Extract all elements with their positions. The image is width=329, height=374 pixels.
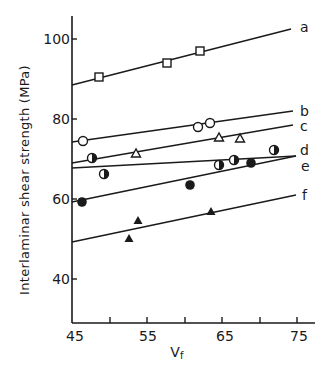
open-square-marker [196, 47, 204, 55]
half-filled-circle-marker [270, 146, 279, 155]
y-tick-label: 40 [52, 271, 70, 287]
series-a-markers [95, 47, 204, 81]
open-circle-marker [79, 137, 88, 146]
x-tick-label: 65 [216, 328, 234, 344]
x-axis-title: Vf [170, 344, 184, 361]
chart-canvas: 100 80 60 40 45 55 65 75 Interlaminar sh… [0, 0, 329, 374]
series-label-b: b [300, 103, 309, 119]
filled-triangle-marker [134, 216, 143, 224]
series-f-markers [125, 207, 216, 242]
fit-line-b [72, 111, 293, 142]
open-circle-marker [194, 123, 203, 132]
fit-line-a [72, 29, 291, 85]
open-circle-marker [206, 119, 215, 128]
fit-line-f [72, 195, 296, 242]
filled-circle-marker [246, 158, 256, 168]
filled-circle-marker [185, 180, 195, 190]
x-tick-label: 75 [290, 328, 308, 344]
filled-circle-marker [77, 197, 87, 207]
x-tick-label: 55 [139, 328, 157, 344]
series-label-f: f [302, 187, 308, 203]
series-label-a: a [300, 19, 309, 35]
x-axis-title-main: V [170, 344, 180, 360]
series-label-d: d [300, 142, 309, 158]
half-filled-circle-marker [230, 156, 239, 165]
y-tick-label: 100 [43, 31, 70, 47]
filled-triangle-marker [207, 207, 216, 215]
series-label-c: c [300, 118, 308, 134]
half-filled-circle-marker [100, 170, 109, 179]
fit-line-e [72, 156, 296, 202]
open-square-marker [95, 73, 103, 81]
y-tick-label: 60 [52, 191, 70, 207]
half-filled-circle-marker [215, 161, 224, 170]
series-label-e: e [301, 158, 310, 174]
x-axis-title-sub: f [180, 350, 184, 361]
fit-lines [72, 29, 296, 242]
y-tick-label: 80 [52, 111, 70, 127]
y-axis-title: Interlaminar shear strength (MPa) [17, 65, 32, 295]
open-square-marker [163, 59, 171, 67]
x-ticks [110, 317, 297, 323]
x-tick-label: 45 [66, 328, 84, 344]
filled-triangle-marker [125, 234, 134, 242]
half-filled-circle-marker [88, 154, 97, 163]
